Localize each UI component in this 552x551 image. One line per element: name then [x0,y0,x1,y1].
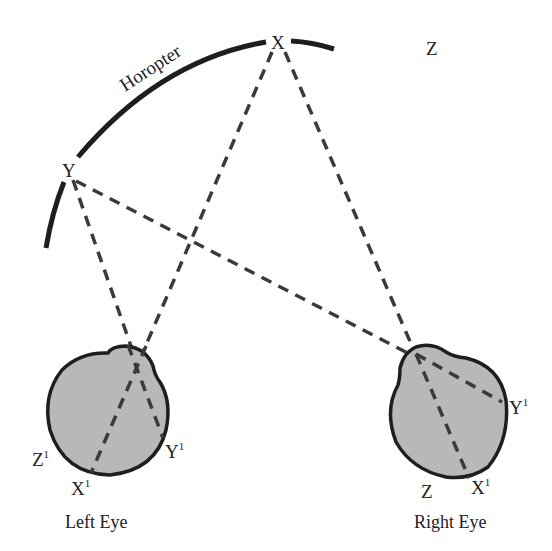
right-retina-z-label: Z [421,481,433,502]
left-eyeball [48,346,168,475]
right-retina-y-label: Y1 [509,396,528,418]
left-retina-z-label: Z1 [32,448,49,470]
right-eye-caption: Right Eye [414,512,487,532]
left-retina-x-label: X1 [71,477,90,499]
horopter-arc-lower [46,182,64,248]
left-retina-y-label: Y1 [165,440,184,462]
point-z-label: Z [426,38,438,59]
right-eye [390,345,506,478]
left-eye-caption: Left Eye [65,512,127,532]
horopter-arc-upper [291,41,334,49]
right-retina-x-label: X1 [471,476,490,498]
right-eyeball [390,345,506,477]
horopter-diagram: Horopter X Y Z Z1 X1 Y1 Left Eye Y1 Z X1… [0,0,552,551]
left-eye [48,345,168,475]
point-y-label: Y [62,160,76,181]
point-x-label: X [271,32,285,53]
horopter-arc [46,41,334,248]
